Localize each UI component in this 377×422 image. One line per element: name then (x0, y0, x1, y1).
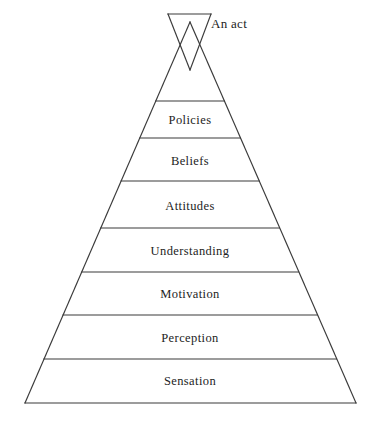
pyramid-right-edge (190, 22, 356, 403)
tier-label-understanding: Understanding (151, 244, 230, 258)
tier-label-motivation: Motivation (160, 287, 220, 301)
pyramid-diagram: An act Policies Beliefs Attitudes Unders… (0, 0, 377, 422)
tier-label-perception: Perception (161, 331, 219, 345)
tier-label-beliefs: Beliefs (171, 154, 209, 168)
pyramid-diagram-canvas: An act Policies Beliefs Attitudes Unders… (0, 0, 377, 422)
act-triangle-left-edge (168, 14, 190, 70)
tier-label-sensation: Sensation (164, 374, 217, 388)
tier-label-policies: Policies (169, 113, 212, 127)
tier-dividers-group (44, 101, 337, 359)
act-label: An act (211, 16, 247, 31)
tier-label-attitudes: Attitudes (165, 199, 214, 213)
